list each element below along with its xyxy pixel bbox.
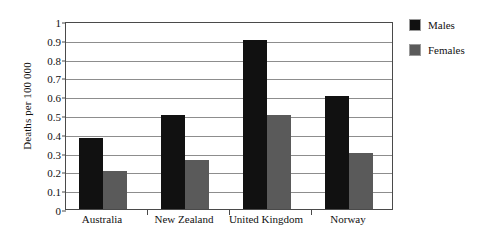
bars-group: [66, 23, 392, 209]
y-axis-tick-label: 1: [56, 17, 62, 29]
x-axis-label-new-zealand: New Zealand: [155, 213, 214, 225]
y-axis-tick-label: 0.9: [47, 36, 61, 48]
chart-legend: MalesFemales: [409, 19, 465, 69]
y-axis-tick-label: 0.5: [47, 111, 61, 123]
x-axis-tick-mark: [147, 210, 148, 215]
y-axis-tick-label: 0.4: [47, 130, 61, 142]
bar-females-norway: [349, 153, 373, 209]
bar-males-australia: [79, 138, 103, 209]
bar-females-australia: [103, 171, 127, 209]
bar-males-united-kingdom: [243, 40, 267, 209]
y-axis-tick-label: 0: [56, 205, 62, 217]
y-axis-tick-label: 0.3: [47, 149, 61, 161]
y-axis-tick-label: 0.2: [47, 167, 61, 179]
legend-label-males: Males: [428, 19, 455, 31]
x-axis-tick-mark: [229, 210, 230, 215]
y-axis-title: Deaths per 100 000: [21, 16, 33, 196]
legend-label-females: Females: [428, 44, 465, 56]
bar-males-norway: [325, 96, 349, 209]
legend-item-males: Males: [409, 19, 465, 31]
bar-females-new-zealand: [185, 160, 209, 209]
legend-swatch-females: [409, 44, 421, 56]
bar-females-united-kingdom: [267, 115, 291, 209]
x-axis-label-norway: Norway: [330, 213, 365, 225]
y-axis-tick-label: 0.7: [47, 73, 61, 85]
x-axis-label-australia: Australia: [82, 213, 122, 225]
bar-chart-figure: Deaths per 100 000 10.90.80.70.60.50.40.…: [0, 0, 494, 245]
plot-area: 10.90.80.70.60.50.40.30.20.10: [65, 22, 393, 210]
legend-swatch-males: [409, 19, 421, 31]
legend-item-females: Females: [409, 44, 465, 56]
y-axis-tick-label: 0.6: [47, 92, 61, 104]
x-axis-tick-mark: [311, 210, 312, 215]
y-axis-tick-label: 0.8: [47, 55, 61, 67]
bar-males-new-zealand: [161, 115, 185, 209]
y-axis-tick-label: 0.1: [47, 186, 61, 198]
x-axis-label-united-kingdom: United Kingdom: [229, 213, 303, 225]
y-axis-tick-mark: [62, 211, 66, 212]
